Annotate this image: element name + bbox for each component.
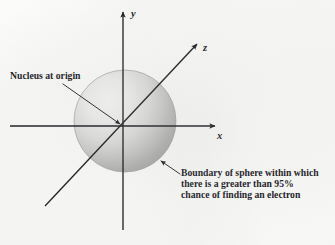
x-axis-label: x bbox=[216, 130, 222, 141]
boundary-callout: Boundary of sphere within which there is… bbox=[161, 161, 319, 200]
z-axis-label: z bbox=[202, 42, 208, 53]
figure-root: y x z Nucleus at origin Boundary of sphe… bbox=[0, 0, 335, 245]
boundary-callout-line-2: there is a greater than 95% bbox=[181, 178, 294, 189]
nucleus-callout-label: Nucleus at origin bbox=[10, 70, 81, 81]
orbital-diagram-svg: y x z Nucleus at origin Boundary of sphe… bbox=[0, 0, 335, 245]
boundary-callout-line-1: Boundary of sphere within which bbox=[181, 167, 319, 178]
boundary-leader-line bbox=[161, 161, 180, 174]
y-axis-label: y bbox=[129, 8, 136, 19]
boundary-callout-line-3: chance of finding an electron bbox=[181, 189, 301, 200]
